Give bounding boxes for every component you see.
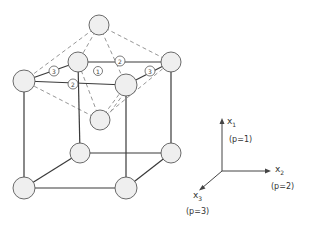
svg-text:x2: x2 (275, 164, 284, 176)
atom-top (89, 15, 109, 35)
lattice-diagram: 3 2 1 3 2 x1 (p=1) x2 (p=2) x3 (p=3) (0, 0, 311, 226)
atom-lower-back-right (161, 143, 181, 163)
site-label: 1 (96, 68, 100, 75)
atom-upper-back-left (68, 52, 88, 72)
atoms (13, 15, 181, 199)
site-label: 2 (118, 58, 122, 65)
atom-upper-front-left (13, 70, 35, 92)
site-label: 2 (71, 81, 75, 88)
svg-text:x1: x1 (227, 116, 236, 128)
site-label: 3 (52, 68, 56, 75)
x3-note: (p=3) (186, 207, 209, 216)
atom-upper-front-right (115, 74, 137, 96)
atom-upper-back-right (161, 52, 181, 72)
atom-lower-front-left (13, 177, 35, 199)
coordinate-axes: x1 (p=1) x2 (p=2) x3 (p=3) (186, 116, 294, 216)
x2-note: (p=2) (271, 182, 294, 191)
x1-note: (p=1) (229, 135, 252, 144)
atom-lower-front-right (115, 177, 137, 199)
atom-lower-back-left (70, 143, 90, 163)
atom-octa-bottom (90, 110, 110, 130)
svg-text:x3: x3 (193, 190, 202, 202)
site-label: 3 (148, 68, 152, 75)
